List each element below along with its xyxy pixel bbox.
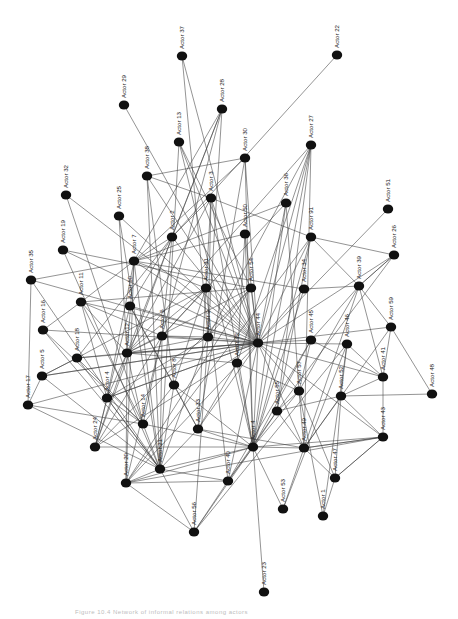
node-actor-57[interactable]: Actor 57 [294,360,304,395]
node-actor-20[interactable]: Actor 20 [121,452,131,487]
node-dot[interactable] [342,339,352,348]
node-dot[interactable] [272,406,282,415]
node-dot[interactable] [248,442,258,451]
node-actor-11[interactable]: Actor 11 [76,272,86,307]
node-actor-36[interactable]: Actor 36 [281,172,291,207]
node-actor-9[interactable]: Actor 9 [203,310,213,342]
node-actor-21[interactable]: Actor 21 [155,438,165,473]
node-dot[interactable] [240,229,250,238]
node-actor-28[interactable]: Actor 28 [217,78,227,113]
node-actor-47[interactable]: Actor 47 [330,447,340,482]
node-dot[interactable] [206,193,216,202]
node-dot[interactable] [189,527,199,536]
node-dot[interactable] [169,380,179,389]
node-dot[interactable] [294,386,304,395]
node-dot[interactable] [167,232,177,241]
node-actor-12[interactable]: Actor 12 [122,322,132,357]
node-dot[interactable] [114,211,124,220]
node-dot[interactable] [155,464,165,473]
node-actor-16[interactable]: Actor 16 [38,299,48,334]
node-dot[interactable] [76,297,86,306]
node-dot[interactable] [203,332,213,341]
node-dot[interactable] [217,104,227,113]
node-actor-42[interactable]: Actor 42 [232,332,242,367]
node-dot[interactable] [318,511,328,520]
node-actor-18[interactable]: Actor 18 [72,327,82,362]
node-dot[interactable] [389,250,399,259]
node-actor-30[interactable]: Actor 30 [240,127,250,162]
node-actor-2[interactable]: Actor 2 [167,210,177,242]
node-dot[interactable] [61,190,71,199]
node-dot[interactable] [38,325,48,334]
node-dot[interactable] [121,478,131,487]
node-actor-23[interactable]: Actor 23 [259,561,269,596]
node-actor-6[interactable]: Actor 6 [157,309,167,341]
node-actor-52[interactable]: Actor 52 [336,365,346,400]
node-dot[interactable] [26,275,36,284]
node-actor-10[interactable]: Actor 10 [125,275,135,310]
node-actor-38[interactable]: Actor 38 [142,145,152,180]
node-dot[interactable] [232,358,242,367]
node-dot[interactable] [102,393,112,402]
node-actor-19[interactable]: Actor 19 [58,219,68,254]
node-dot[interactable] [281,198,291,207]
node-actor-43[interactable]: Actor 43 [378,406,388,441]
node-actor-40[interactable]: Actor 40 [223,450,233,485]
node-dot[interactable] [58,245,68,254]
node-dot[interactable] [72,353,82,362]
node-actor-39[interactable]: Actor 39 [354,255,364,290]
node-dot[interactable] [383,204,393,213]
node-dot[interactable] [119,100,129,109]
node-dot[interactable] [142,171,152,180]
node-dot[interactable] [193,424,203,433]
node-actor-25[interactable]: Actor 25 [114,185,124,220]
node-dot[interactable] [299,284,309,293]
node-dot[interactable] [336,391,346,400]
node-dot[interactable] [253,338,263,347]
node-dot[interactable] [299,443,309,452]
node-actor-91[interactable]: Actor 91 [306,206,316,241]
node-dot[interactable] [306,140,316,149]
node-dot[interactable] [306,335,316,344]
node-dot[interactable] [177,51,187,60]
node-actor-41[interactable]: Actor 41 [378,346,388,381]
node-dot[interactable] [240,153,250,162]
node-dot[interactable] [378,432,388,441]
node-dot[interactable] [174,137,184,146]
node-actor-45[interactable]: Actor 45 [306,309,316,344]
node-actor-35[interactable]: Actor 35 [26,249,36,284]
node-dot[interactable] [278,504,288,513]
node-actor-17[interactable]: Actor 17 [23,374,33,409]
node-dot[interactable] [23,400,33,409]
node-dot[interactable] [332,50,342,59]
node-dot[interactable] [427,389,437,398]
node-actor-54[interactable]: Actor 54 [246,257,256,292]
node-actor-48[interactable]: Actor 48 [427,363,437,398]
node-actor-22[interactable]: Actor 22 [332,24,342,59]
node-dot[interactable] [259,587,269,596]
node-dot[interactable] [125,301,135,310]
node-dot[interactable] [378,372,388,381]
node-dot[interactable] [37,371,47,380]
node-actor-4x[interactable]: Actor 4 [102,371,112,403]
node-actor-37[interactable]: Actor 37 [177,25,187,60]
node-dot[interactable] [129,256,139,265]
node-dot[interactable] [122,348,132,357]
node-dot[interactable] [157,331,167,340]
node-dot[interactable] [223,476,233,485]
node-actor-24[interactable]: Actor 24 [90,416,100,451]
node-actor-5[interactable]: Actor 5 [37,349,47,381]
node-dot[interactable] [354,281,364,290]
node-actor-53[interactable]: Actor 53 [278,478,288,513]
node-actor-26[interactable]: Actor 26 [389,224,399,259]
node-dot[interactable] [90,442,100,451]
node-actor-33[interactable]: Actor 33 [193,398,203,433]
node-actor-59[interactable]: Actor 59 [386,296,396,331]
node-actor-34[interactable]: Actor 34 [299,258,309,293]
node-dot[interactable] [138,419,148,428]
node-dot[interactable] [306,232,316,241]
node-actor-51[interactable]: Actor 51 [383,178,393,213]
node-dot[interactable] [386,322,396,331]
node-actor-46[interactable]: Actor 46 [342,313,352,348]
node-actor-56[interactable]: Actor 56 [189,501,199,536]
